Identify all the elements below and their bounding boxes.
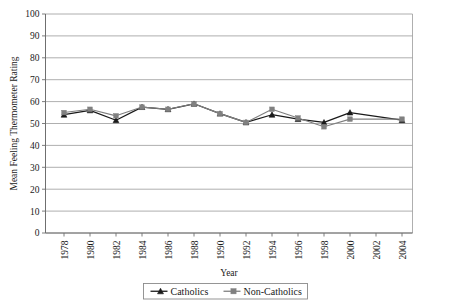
- chart-container: 0102030405060708090100 19781980198219841…: [0, 0, 451, 306]
- datapoint-non-catholics-1996: [296, 116, 301, 121]
- datapoint-non-catholics-1994: [270, 107, 275, 112]
- x-tick-label-1994: 1994: [268, 240, 278, 259]
- y-tick-label-90: 90: [30, 31, 40, 41]
- legend-label-catholics: Catholics: [171, 286, 209, 297]
- y-tick-label-40: 40: [30, 141, 40, 151]
- legend-label-non-catholics: Non-Catholics: [244, 286, 302, 297]
- x-tick-label-1988: 1988: [190, 240, 200, 259]
- datapoint-non-catholics-1990: [218, 111, 223, 116]
- y-tick-label-10: 10: [30, 207, 40, 217]
- datapoint-non-catholics-1986: [166, 107, 171, 112]
- y-tick-label-80: 80: [30, 53, 40, 63]
- line-chart: 0102030405060708090100 19781980198219841…: [0, 0, 451, 306]
- x-tick-label-1990: 1990: [216, 240, 226, 259]
- y-tick-label-100: 100: [25, 9, 40, 19]
- x-tick-label-1992: 1992: [242, 240, 252, 259]
- datapoint-non-catholics-1998: [322, 124, 327, 129]
- x-tick-label-2002: 2002: [372, 240, 382, 259]
- y-tick-label-60: 60: [30, 97, 40, 107]
- x-axis-title: Year: [220, 268, 238, 278]
- x-tick-label-1982: 1982: [112, 240, 122, 259]
- datapoint-non-catholics-2004: [400, 117, 405, 122]
- datapoint-non-catholics-1978: [62, 110, 67, 115]
- datapoint-non-catholics-1988: [192, 101, 197, 106]
- x-tick-label-2000: 2000: [346, 240, 356, 259]
- datapoint-non-catholics-1982: [114, 114, 119, 119]
- x-tick-label-1996: 1996: [294, 240, 304, 259]
- y-tick-label-50: 50: [30, 119, 40, 129]
- x-tick-label-1978: 1978: [60, 240, 70, 259]
- datapoint-non-catholics-2000: [348, 117, 353, 122]
- y-tick-label-20: 20: [30, 185, 40, 195]
- x-tick-label-1986: 1986: [164, 240, 174, 259]
- x-tick-label-1980: 1980: [86, 240, 96, 259]
- chart-legend: CatholicsNon-Catholics: [144, 284, 308, 300]
- x-tick-label-2004: 2004: [398, 240, 408, 259]
- x-tick-label-1998: 1998: [320, 240, 330, 259]
- y-tick-label-0: 0: [35, 228, 40, 238]
- datapoint-non-catholics-1980: [88, 107, 93, 112]
- y-tick-label-30: 30: [30, 163, 40, 173]
- y-tick-label-70: 70: [30, 75, 40, 85]
- datapoint-non-catholics-1984: [140, 105, 145, 110]
- datapoint-non-catholics-1992: [244, 120, 249, 125]
- x-tick-label-1984: 1984: [138, 240, 148, 259]
- legend-marker-square: [231, 289, 236, 294]
- y-axis-title: Mean Feeling Thermometer Rating: [9, 56, 19, 190]
